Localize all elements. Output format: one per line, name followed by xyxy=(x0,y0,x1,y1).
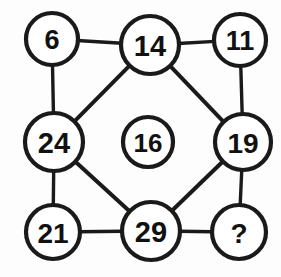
puzzle-node-bottom-left: 21 xyxy=(26,205,80,259)
puzzle-edge-edge-6-14 xyxy=(77,41,122,44)
puzzle-node-bottom-center: 29 xyxy=(122,202,180,260)
puzzle-edge-edge-19-q xyxy=(240,169,242,206)
node-label-top-center: 14 xyxy=(134,30,166,62)
puzzle-edge-edge-6-24 xyxy=(52,64,53,114)
puzzle-node-middle-left: 24 xyxy=(25,113,83,171)
node-label-bottom-right: ? xyxy=(230,218,247,249)
puzzle-node-bottom-right[interactable]: ? xyxy=(212,205,266,259)
node-label-bottom-center: 29 xyxy=(135,216,167,248)
node-label-center: 16 xyxy=(134,128,163,158)
puzzle-node-middle-right: 19 xyxy=(215,114,271,170)
node-layer: 614112416192129? xyxy=(25,13,271,260)
puzzle-edge-edge-14-19 xyxy=(169,65,224,122)
node-label-middle-right: 19 xyxy=(227,128,258,159)
puzzle-node-top-left: 6 xyxy=(26,13,78,65)
node-label-top-left: 6 xyxy=(44,25,59,55)
puzzle-edge-edge-14-24 xyxy=(74,65,131,122)
puzzle-node-top-right: 11 xyxy=(214,14,266,66)
node-label-top-right: 11 xyxy=(226,26,255,56)
node-label-middle-left: 24 xyxy=(38,127,70,159)
puzzle-edge-edge-19-29 xyxy=(171,161,223,212)
puzzle-node-center: 16 xyxy=(123,117,173,167)
puzzle-node-top-center: 14 xyxy=(121,16,179,74)
puzzle-canvas: 614112416192129? xyxy=(0,0,281,277)
puzzle-edge-edge-11-19 xyxy=(241,65,242,115)
number-puzzle-diagram: 614112416192129? xyxy=(0,0,281,277)
node-label-bottom-left: 21 xyxy=(37,218,68,249)
puzzle-edge-edge-14-11 xyxy=(178,41,215,43)
puzzle-edge-edge-24-29 xyxy=(75,161,131,212)
